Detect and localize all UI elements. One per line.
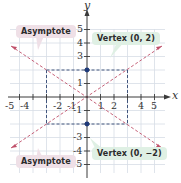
y-tick-label: 3 [77,51,83,61]
vertex-callout-top: Vertex (0, 2) [92,32,160,45]
vertex-point-top [85,68,90,73]
x-axis-arrow-icon [164,95,171,100]
y-tick-label: -3 [73,132,82,142]
y-tick-label: 5 [77,24,83,34]
y-axis-label: y [84,0,90,11]
x-tick-label: 2 [111,101,117,111]
asymptote-callout-top: Asymptote [16,25,76,38]
x-tick-label: -5 [5,101,14,111]
y-tick-label: -4 [73,146,82,156]
y-tick-label: 4 [77,38,83,48]
hyperbola-diagram: y x -5 -4 -2 -1 1 2 4 5 5 4 3 1 -1 -3 -4… [0,0,181,183]
x-tick-label: 1 [98,101,104,111]
y-tick-label: -1 [73,105,82,115]
vertex-callout-bottom: Vertex (0, −2) [92,147,167,160]
x-tick-label: -4 [20,101,29,111]
x-tick-label: 4 [138,101,144,111]
x-tick-label: 5 [151,101,157,111]
asymptote-callout-bottom: Asymptote [16,155,76,168]
x-axis-label: x [172,90,178,101]
vertex-point-bottom [85,122,90,127]
x-tick-label: -2 [53,101,62,111]
y-tick-label: 1 [77,78,83,88]
